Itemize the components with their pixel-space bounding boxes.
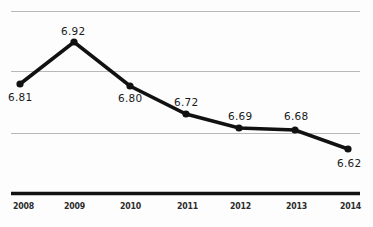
x-tick-2008: 2008 bbox=[13, 202, 34, 211]
data-point-2010[interactable] bbox=[126, 82, 133, 89]
data-label-2013: 6.68 bbox=[284, 111, 309, 122]
x-tick-2011: 2011 bbox=[177, 202, 198, 211]
x-tick-2009: 2009 bbox=[64, 202, 85, 211]
data-label-2012: 6.69 bbox=[228, 111, 253, 122]
x-tick-2013: 2013 bbox=[286, 202, 307, 211]
line-chart: 6.81 6.92 6.80 6.72 6.69 6.68 6.62 2008 … bbox=[0, 0, 373, 227]
data-label-2008: 6.81 bbox=[8, 92, 33, 103]
x-tick-2014: 2014 bbox=[340, 202, 361, 211]
data-label-2010: 6.80 bbox=[118, 93, 143, 104]
data-point-2013[interactable] bbox=[291, 126, 298, 133]
data-label-2009: 6.92 bbox=[61, 26, 86, 37]
data-point-2014[interactable] bbox=[344, 145, 351, 152]
data-label-2011: 6.72 bbox=[174, 97, 199, 108]
data-label-2014: 6.62 bbox=[337, 158, 362, 169]
data-point-2011[interactable] bbox=[182, 110, 189, 117]
data-point-2012[interactable] bbox=[235, 124, 242, 131]
data-point-2008[interactable] bbox=[16, 80, 23, 87]
chart-plot-area bbox=[0, 0, 373, 227]
data-point-2009[interactable] bbox=[70, 38, 77, 45]
x-tick-2010: 2010 bbox=[120, 202, 141, 211]
x-tick-2012: 2012 bbox=[230, 202, 251, 211]
